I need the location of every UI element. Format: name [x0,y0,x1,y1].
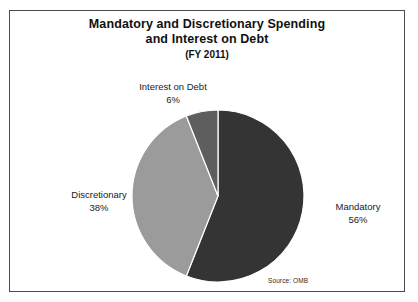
pie-label-interest-on-debt-name: Interest on Debt [108,81,238,94]
pie-label-mandatory: Mandatory 56% [310,201,406,226]
pie-label-mandatory-value: 56% [310,214,406,227]
chart-title-line-1: Mandatory and Discretionary Spending [10,17,404,32]
pie-label-mandatory-name: Mandatory [310,201,406,214]
pie-label-discretionary-name: Discretionary [38,189,160,202]
pie-label-discretionary-value: 38% [38,202,160,215]
chart-title: Mandatory and Discretionary Spending and… [10,17,404,62]
pie-label-interest-on-debt: Interest on Debt 6% [108,81,238,106]
chart-title-subtitle: (FY 2011) [10,48,404,62]
chart-frame: Mandatory and Discretionary Spending and… [9,10,405,292]
chart-title-line-2: and Interest on Debt [10,32,404,47]
pie-label-interest-on-debt-value: 6% [108,94,238,107]
source-note: Source: OMB [268,277,308,284]
pie-label-discretionary: Discretionary 38% [38,189,160,214]
